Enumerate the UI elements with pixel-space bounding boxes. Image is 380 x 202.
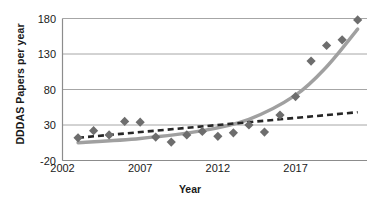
data-point-marker [229, 128, 238, 137]
data-point-marker [260, 128, 269, 137]
chart-container: DDDAS Papers per year 1801308030-20 2002… [0, 0, 380, 202]
plot-area [0, 0, 380, 202]
data-point-marker [167, 137, 176, 146]
x-axis-title: Year [0, 183, 380, 195]
gridlines [63, 19, 368, 161]
data-point-marker [306, 57, 315, 66]
data-point-marker [322, 41, 331, 50]
data-point-marker [105, 130, 114, 139]
data-point-marker [151, 132, 160, 141]
data-point-marker [198, 127, 207, 136]
data-point-marker [353, 15, 362, 24]
data-point-marker [275, 110, 284, 119]
data-point-marker [213, 132, 222, 141]
data-point-marker [89, 126, 98, 135]
